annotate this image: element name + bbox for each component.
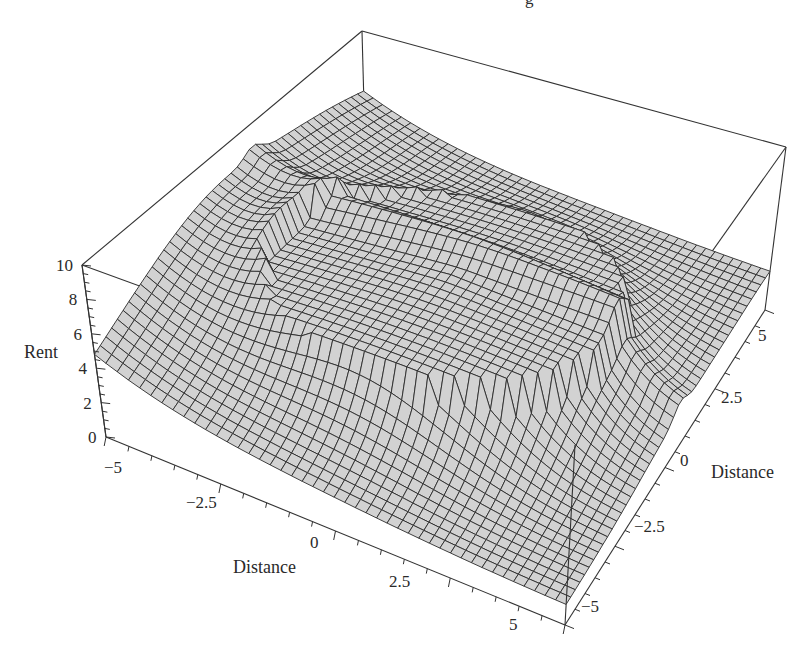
x-tick-label: −5 <box>104 458 122 477</box>
y-axis-title: Distance <box>711 462 774 482</box>
y-tick-label: 5 <box>758 326 767 345</box>
x-tick-label: −2.5 <box>186 493 217 512</box>
y-tick-label: 0 <box>680 451 689 470</box>
rent-surface-mesh <box>95 91 771 604</box>
x-tick-label: 2.5 <box>389 572 410 591</box>
y-tick-label: 2.5 <box>721 388 742 407</box>
x-axis-title: Distance <box>233 557 296 577</box>
z-tick-label: 2 <box>83 394 92 413</box>
y-tick-label: −5 <box>581 597 599 616</box>
z-tick-label: 0 <box>88 428 97 447</box>
rent-surface-plot: g 0 2 4 6 8 10 Rent −5 −2.5 0 2.5 5 Dist… <box>0 0 812 663</box>
z-tick-label: 6 <box>74 325 83 344</box>
y-tick-label: −2.5 <box>634 517 665 536</box>
z-axis-title: Rent <box>24 342 58 362</box>
z-axis-labels: 0 2 4 6 8 10 Rent <box>24 256 97 447</box>
z-tick-label: 8 <box>69 290 78 309</box>
cut-off-title-fragment: g <box>525 0 534 8</box>
z-tick-label: 10 <box>56 256 73 275</box>
x-tick-label: 0 <box>310 533 319 552</box>
z-tick-label: 4 <box>78 359 87 378</box>
x-tick-label: 5 <box>509 615 518 634</box>
